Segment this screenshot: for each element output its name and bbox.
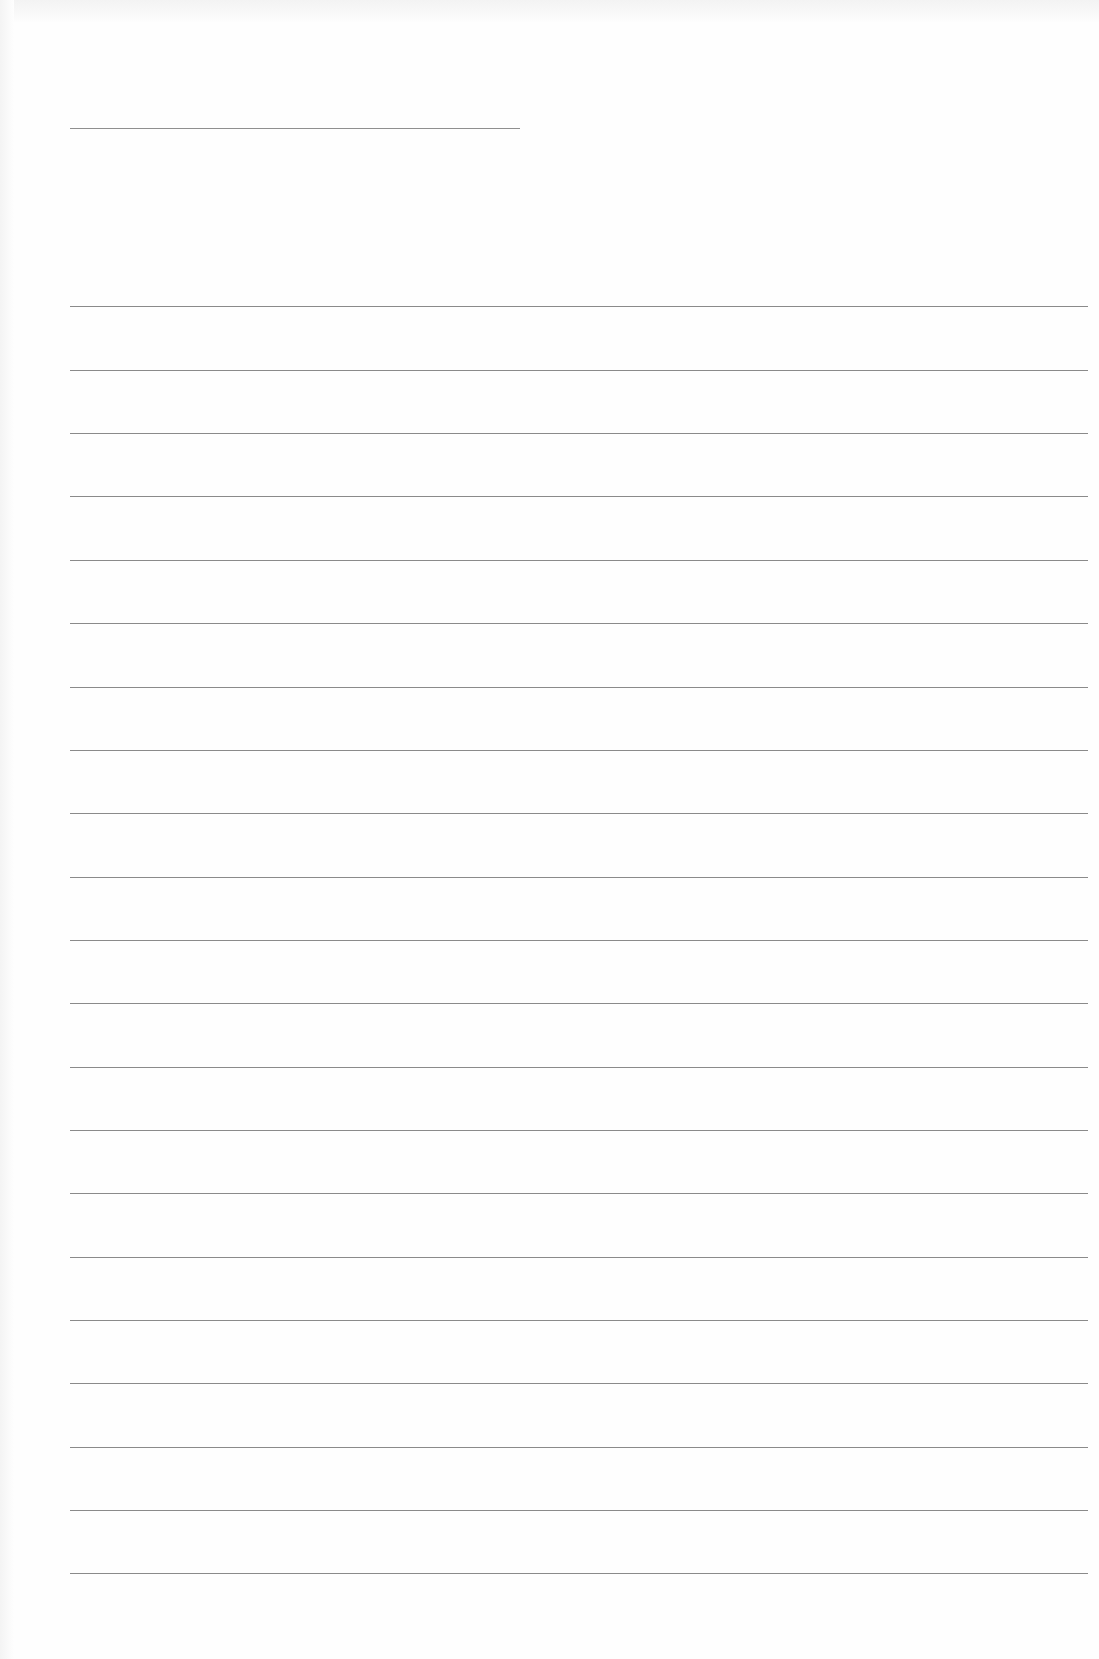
ruled-line (70, 1193, 1088, 1194)
ruled-line (70, 1573, 1088, 1574)
ruled-line (70, 496, 1088, 497)
ruled-line (70, 1320, 1088, 1321)
ruled-line (70, 1130, 1088, 1131)
header-rule-line (70, 128, 520, 129)
ruled-line (70, 940, 1088, 941)
scan-top-shadow (0, 0, 1099, 22)
ruled-line (70, 1003, 1088, 1004)
ruled-line (70, 623, 1088, 624)
lined-paper-sheet (0, 0, 1099, 1659)
ruled-line (70, 1447, 1088, 1448)
ruled-line (70, 877, 1088, 878)
ruled-line (70, 306, 1088, 307)
ruled-line (70, 1510, 1088, 1511)
ruled-line (70, 1383, 1088, 1384)
ruled-line (70, 750, 1088, 751)
ruled-line (70, 370, 1088, 371)
ruled-line (70, 813, 1088, 814)
ruled-line (70, 560, 1088, 561)
ruled-line (70, 1067, 1088, 1068)
ruled-line (70, 687, 1088, 688)
ruled-line (70, 1257, 1088, 1258)
ruled-line (70, 433, 1088, 434)
scan-left-shadow (0, 0, 14, 1659)
